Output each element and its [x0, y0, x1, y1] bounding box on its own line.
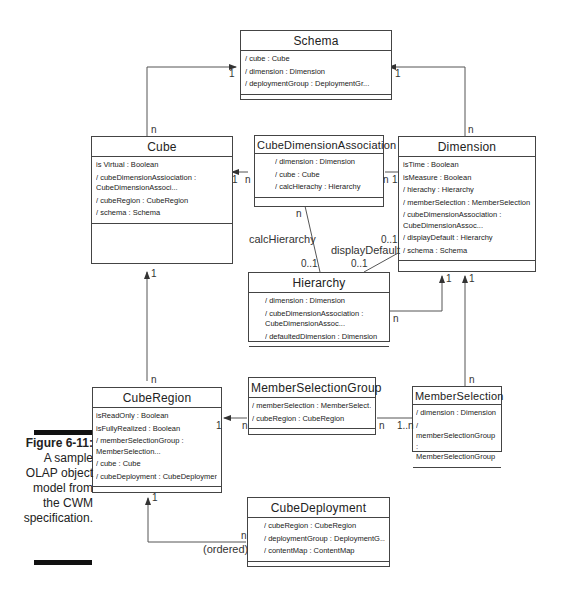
multiplicity-label: n [393, 313, 399, 324]
class-attributes: isReadOnly : Boolean isFullyRealized : B… [93, 408, 221, 487]
class-operations [249, 347, 389, 353]
class-cube-region[interactable]: CubeRegion isReadOnly : Boolean isFullyR… [92, 387, 222, 493]
attribute: / schema : Schema [403, 246, 531, 257]
attribute: / cubeDimensionAssiociation : CubeDimens… [96, 173, 228, 194]
class-title: Schema [241, 31, 391, 51]
class-member-selection-group[interactable]: MemberSelectionGroup / memberSelection :… [248, 377, 376, 435]
caption-line: the CWM [8, 496, 93, 511]
attribute: / cube : Cube [96, 459, 217, 470]
multiplicity-label: n [151, 374, 157, 385]
attribute: is Virtual : Boolean [96, 160, 228, 171]
attribute: / cubeDimensionAssociation : CubeDimensi… [403, 210, 531, 231]
class-title: Hierarchy [249, 273, 389, 293]
attribute: / memberSelectionGroup : MemberSelection… [96, 436, 217, 457]
multiplicity-label: 1 [151, 268, 157, 279]
attribute: / cubeDimensionAssociation : CubeDimensi… [265, 309, 385, 330]
class-operations [241, 95, 391, 101]
attribute: / dimension : Dimension [265, 296, 385, 307]
attribute: / calcHierachy : Hierarchy [275, 182, 379, 193]
class-title: CubeDeployment [248, 498, 389, 518]
class-attributes: is Virtual : Boolean / cubeDimensionAssi… [92, 157, 232, 224]
multiplicity-label: n [241, 530, 247, 541]
multiplicity-label: 1 [392, 174, 398, 185]
attribute: / cubeRegion : CubeRegion [96, 196, 228, 207]
class-title: CubeRegion [93, 388, 221, 408]
class-cube-dimension-association[interactable]: CubeDimensionAssociation / dimension : D… [254, 135, 384, 207]
multiplicity-label: n [383, 174, 389, 185]
multiplicity-label: 0..1 [351, 258, 368, 269]
caption-line: model from [8, 481, 93, 496]
class-title: Cube [92, 137, 232, 157]
class-attributes: / cube : Cube / dimension : Dimension / … [241, 51, 391, 95]
multiplicity-label: n [245, 174, 251, 185]
class-attributes: / dimension : Dimension / memberSelectio… [413, 405, 501, 468]
attribute: / displayDefault : Hierarchy [403, 233, 531, 244]
caption-rule-top [34, 430, 92, 435]
attribute: isMeasure : Boolean [403, 173, 531, 184]
class-attributes: / memberSelection : MemberSelect... / cu… [249, 398, 375, 429]
attribute: / cubeRegion : CubeRegion [252, 414, 371, 425]
class-hierarchy[interactable]: Hierarchy / dimension : Dimension / cube… [248, 272, 390, 342]
class-attributes: / dimension : Dimension / cubeDimensionA… [249, 293, 389, 347]
attribute: / contentMap : ContentMap [264, 546, 385, 557]
attribute: / defaultedDimension : Dimension [265, 332, 385, 343]
multiplicity-label: n [469, 374, 475, 385]
caption-line: OLAP object [8, 466, 93, 481]
caption-line: A sample [8, 451, 93, 466]
attribute: / dimension : Dimension [245, 67, 387, 78]
attribute: isTime : Boolean [403, 160, 531, 171]
class-cube-deployment[interactable]: CubeDeployment / cubeRegion : CubeRegion… [247, 497, 390, 567]
attribute: / memberSelection : MemberSelect... [252, 401, 371, 412]
attribute: / dimension : Dimension [416, 408, 497, 419]
multiplicity-label: 1..n [397, 420, 414, 431]
class-operations [249, 429, 375, 435]
multiplicity-label: 1 [216, 420, 222, 431]
multiplicity-label: 1 [232, 174, 238, 185]
class-operations [92, 224, 232, 230]
multiplicity-label: 1 [152, 492, 158, 503]
class-operations [413, 468, 501, 474]
class-operations [255, 198, 383, 204]
caption-rule-bottom [34, 560, 92, 565]
class-title: MemberSelection [413, 387, 501, 405]
attribute: isFullyRealized : Boolean [96, 424, 217, 435]
constraint-label-ordered: (ordered) [203, 543, 248, 555]
attribute: / cube : Cube [245, 54, 387, 65]
multiplicity-label: n [379, 420, 385, 431]
class-attributes: / cubeRegion : CubeRegion / deploymentGr… [248, 518, 389, 562]
attribute: / cubeRegion : CubeRegion [264, 521, 385, 532]
multiplicity-label: n [468, 124, 474, 135]
class-cube[interactable]: Cube is Virtual : Boolean / cubeDimensio… [91, 136, 233, 264]
class-title: MemberSelectionGroup [249, 378, 375, 398]
role-label-calc-hierarchy: calcHierarchy [249, 233, 316, 245]
multiplicity-label: 1 [469, 273, 475, 284]
multiplicity-label: 1 [395, 68, 401, 79]
class-operations [248, 562, 389, 568]
attribute: / schema : Schema [96, 208, 228, 219]
figure-caption: Figure 6-11: A sample OLAP object model … [8, 436, 93, 526]
class-attributes: / dimension : Dimension / cube : Cube / … [255, 154, 383, 198]
multiplicity-label: 0..1 [301, 258, 318, 269]
class-schema[interactable]: Schema / cube : Cube / dimension : Dimen… [240, 30, 392, 100]
class-member-selection[interactable]: MemberSelection / dimension : Dimension … [412, 386, 502, 452]
attribute: / deploymentGroup : DeploymentGr... [245, 79, 387, 90]
multiplicity-label: n [242, 420, 248, 431]
attribute: / hierachy : Hierarchy [403, 185, 531, 196]
attribute: / cubeDeployment : CubeDeployment [96, 472, 217, 483]
attribute: / dimension : Dimension [275, 157, 379, 168]
class-operations [399, 261, 535, 267]
attribute: / memberSelection : MemberSelection [403, 198, 531, 209]
multiplicity-label: 1 [229, 68, 235, 79]
attribute: / memberSelectionGroup : MemberSelection… [416, 421, 497, 463]
attribute: / deploymentGroup : DeploymentG... [264, 534, 385, 545]
class-attributes: isTime : Boolean isMeasure : Boolean / h… [399, 157, 535, 261]
multiplicity-label: n [296, 208, 302, 219]
caption-line: specification. [8, 511, 93, 526]
attribute: / cube : Cube [275, 170, 379, 181]
multiplicity-label: n [151, 124, 157, 135]
class-title: CubeDimensionAssociation [255, 136, 383, 154]
multiplicity-label: 0..1 [381, 234, 398, 245]
attribute: isReadOnly : Boolean [96, 411, 217, 422]
multiplicity-label: 1 [446, 273, 452, 284]
class-dimension[interactable]: Dimension isTime : Boolean isMeasure : B… [398, 136, 536, 272]
